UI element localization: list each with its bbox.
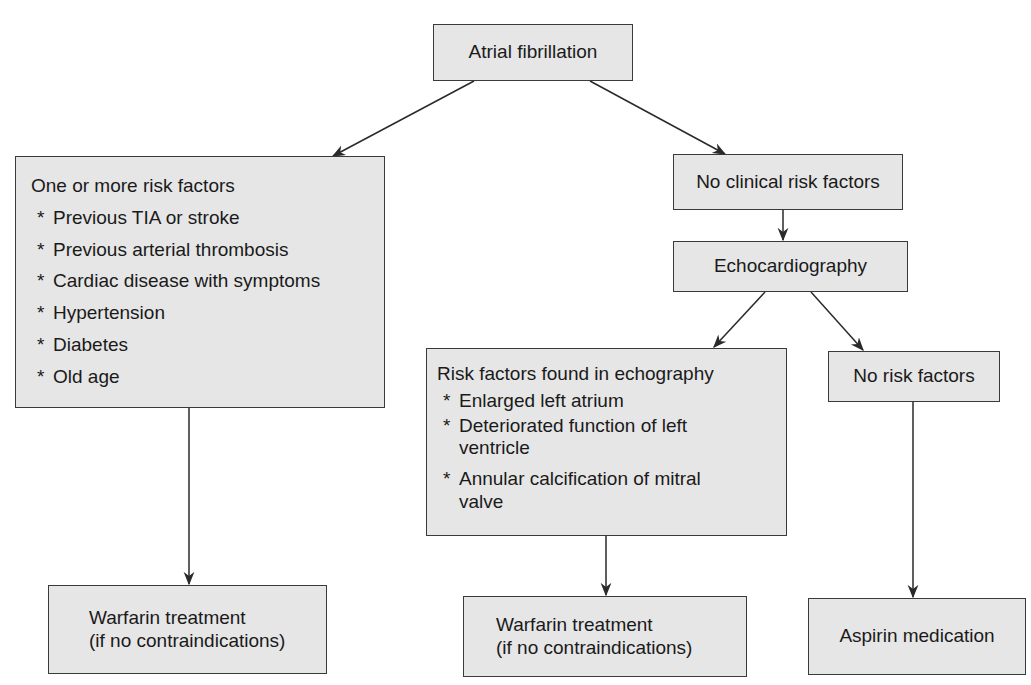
node-title: One or more risk factors [31,175,384,198]
arrow-echo-to-echorisk [714,292,765,347]
risk-factor-list: Previous TIA or stroke Previous arterial… [31,207,384,389]
list-item: Previous TIA or stroke [31,207,384,230]
node-no-risk-factors: No risk factors [828,351,1000,402]
node-line1: Warfarin treatment [89,607,285,630]
echo-risk-list: Enlarged left atrium Deteriorated functi… [437,390,786,514]
node-label: Echocardiography [714,255,867,278]
node-label: No clinical risk factors [696,171,880,194]
node-warfarin-treatment-middle: Warfarin treatment (if no contraindicati… [463,596,747,677]
node-label: Aspirin medication [839,625,994,648]
node-aspirin-medication: Aspirin medication [808,598,1026,675]
node-line2: (if no contraindications) [496,637,692,660]
node-no-clinical-risk-factors: No clinical risk factors [673,154,903,210]
node-risk-factors: One or more risk factors Previous TIA or… [15,156,385,408]
node-line2: (if no contraindications) [89,630,285,653]
node-atrial-fibrillation: Atrial fibrillation [433,24,633,81]
node-echocardiography: Echocardiography [673,241,908,292]
node-label: Atrial fibrillation [469,41,598,64]
node-warfarin-treatment-left: Warfarin treatment (if no contraindicati… [48,585,327,674]
list-item: Enlarged left atrium [437,390,746,413]
list-item: Cardiac disease with symptoms [31,270,384,293]
arrow-root-to-risk [333,81,474,156]
list-item: Annular calcification of mitral valve [437,468,746,514]
arrow-echo-to-norisk [811,292,863,350]
list-item: Old age [31,366,384,389]
node-line1: Warfarin treatment [496,614,692,637]
list-item: Diabetes [31,334,384,357]
node-title: Risk factors found in echography [437,363,786,386]
arrow-root-to-noclinical [590,81,725,154]
list-item: Hypertension [31,302,384,325]
node-echo-risk-factors: Risk factors found in echography Enlarge… [426,348,787,536]
list-item: Previous arterial thrombosis [31,239,384,262]
list-item: Deteriorated function of left ventricle [437,415,746,461]
node-label: No risk factors [853,365,974,388]
